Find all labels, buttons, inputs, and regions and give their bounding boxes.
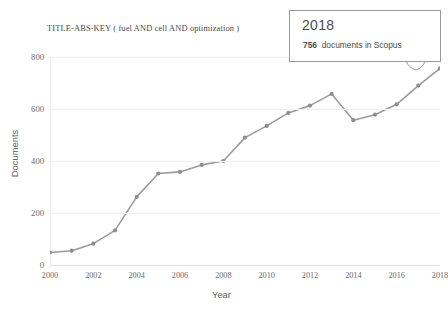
x-tick-label-2012: 2012 — [302, 271, 318, 280]
x-tick-label-2010: 2010 — [258, 271, 274, 280]
gridline-y-400 — [50, 161, 440, 162]
gridline-y-200 — [50, 213, 440, 214]
tooltip-source-label: documents in Scopus — [322, 40, 402, 50]
y-tick-label-800: 800 — [31, 52, 44, 62]
x-tick-label-2016: 2016 — [388, 271, 404, 280]
x-axis-title: Year — [0, 289, 443, 300]
y-tick-label-200: 200 — [31, 208, 44, 218]
y-axis-title: Documents — [9, 114, 20, 194]
tooltip-year-label: 2018 — [302, 17, 334, 33]
data-point-2015[interactable]: 2015: 578 — [373, 113, 377, 117]
y-tick-label-600: 600 — [31, 104, 44, 114]
x-tick-label-2008: 2008 — [215, 271, 231, 280]
gridline-y-600 — [50, 109, 440, 110]
data-point-2001[interactable]: 2001: 55 — [70, 249, 74, 253]
y-tick-label-400: 400 — [31, 156, 44, 166]
hover-tooltip[interactable]: 2018 756 documents in Scopus — [289, 10, 441, 62]
data-point-2006[interactable]: 2006: 358 — [178, 170, 182, 174]
data-point-2014[interactable]: 2014: 557 — [351, 118, 355, 122]
x-tick-label-2006: 2006 — [172, 271, 188, 280]
data-point-2013[interactable]: 2013: 658 — [330, 92, 334, 96]
x-tick-label-2004: 2004 — [128, 271, 144, 280]
tooltip-detail-line: 756 documents in Scopus — [303, 40, 402, 50]
tooltip-document-count: 756 — [303, 40, 317, 50]
x-axis-baseline — [50, 265, 440, 266]
data-point-2004[interactable]: 2004: 262 — [135, 195, 139, 199]
chart-title: TITLE-ABS-KEY ( fuel AND cell AND optimi… — [47, 24, 239, 33]
data-point-2011[interactable]: 2011: 585 — [286, 111, 290, 115]
x-tick-label-2000: 2000 — [42, 271, 58, 280]
data-point-2009[interactable]: 2009: 490 — [243, 136, 247, 140]
plot-area: 2000: 482001: 552002: 822003: 1332004: 2… — [50, 57, 440, 265]
data-point-2000[interactable]: 2000: 48 — [50, 250, 52, 254]
data-point-2017[interactable]: 2017: 690 — [416, 84, 420, 88]
data-point-2012[interactable]: 2012: 613 — [308, 104, 312, 108]
x-tick-label-2014: 2014 — [345, 271, 361, 280]
data-point-2003[interactable]: 2003: 133 — [113, 228, 117, 232]
data-point-2016[interactable]: 2016: 618 — [395, 102, 399, 106]
y-tick-label-0: 0 — [40, 260, 44, 270]
x-tick-label-2018: 2018 — [432, 271, 448, 280]
x-tick-label-2002: 2002 — [85, 271, 101, 280]
y-axis-tick-labels: 0200400600800 — [0, 0, 44, 312]
data-point-2010[interactable]: 2010: 535 — [265, 124, 269, 128]
tooltip-pointer-tail — [406, 61, 426, 71]
data-point-2005[interactable]: 2005: 352 — [156, 171, 160, 175]
data-point-2002[interactable]: 2002: 82 — [91, 242, 95, 246]
data-point-2007[interactable]: 2007: 385 — [200, 163, 204, 167]
